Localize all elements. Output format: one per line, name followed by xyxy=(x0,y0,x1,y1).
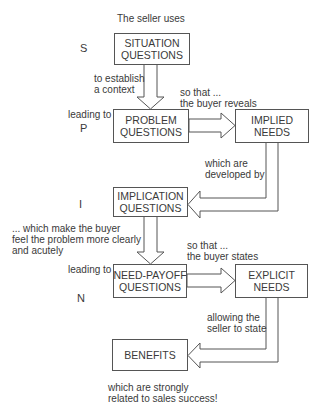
label-make-buyer-feel: ... which make the buyer feel the proble… xyxy=(12,223,141,256)
label-leading-to-2: leading to xyxy=(68,264,111,275)
implied-needs-box: IMPLIED NEEDS xyxy=(235,109,309,143)
arrow-implication-to-needpayoff xyxy=(137,216,164,264)
arrow-problem-to-implied xyxy=(189,113,235,138)
label-buyer-states: so that ... the buyer states xyxy=(187,240,258,262)
problem-questions-box: PROBLEM QUESTIONS xyxy=(113,109,189,143)
label-developed-by: which are developed by xyxy=(205,158,265,180)
intro-text: The seller uses xyxy=(117,13,185,24)
implication-questions-box: IMPLICATION QUESTIONS xyxy=(113,187,188,217)
need-payoff-questions-box: NEED-PAYOFF QUESTIONS xyxy=(113,264,187,298)
benefits-box: BENEFITS xyxy=(112,339,188,371)
explicit-needs-box: EXPLICIT NEEDS xyxy=(235,264,308,298)
label-buyer-reveals: so that ... the buyer reveals xyxy=(180,87,257,109)
arrow-implied-to-implication xyxy=(188,142,278,218)
label-establish-context: to establish a context xyxy=(94,73,145,95)
stage-letter-s: S xyxy=(80,42,87,54)
label-leading-to-1: leading to xyxy=(68,109,111,120)
stage-letter-p: P xyxy=(80,122,87,134)
label-sales-success: which are strongly related to sales succ… xyxy=(108,382,218,404)
label-seller-to-state: allowing the seller to state xyxy=(207,312,266,334)
stage-letter-n: N xyxy=(77,292,85,304)
arrow-needpayoff-to-explicit xyxy=(187,268,235,293)
stage-letter-i: I xyxy=(79,198,82,210)
situation-questions-box: SITUATION QUESTIONS xyxy=(114,33,190,65)
